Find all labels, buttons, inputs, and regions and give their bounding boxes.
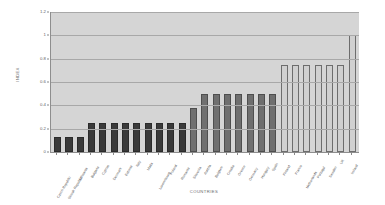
x-label-slot: Spain xyxy=(266,155,277,187)
x-label-slot: Greece xyxy=(232,155,243,187)
gridline xyxy=(51,59,359,60)
bar[interactable] xyxy=(213,94,220,152)
x-label-slot: UK xyxy=(334,155,345,187)
gridline xyxy=(51,105,359,106)
x-label-slot: Slovak Republic xyxy=(62,155,73,187)
bar[interactable] xyxy=(326,65,333,153)
x-label-slot: Estonia xyxy=(119,155,130,187)
bar[interactable] xyxy=(281,65,288,153)
bar[interactable] xyxy=(247,94,254,152)
x-label-slot: Slovenia xyxy=(187,155,198,187)
y-tick-mark xyxy=(47,152,49,153)
bar[interactable] xyxy=(145,123,152,152)
x-label-slot: Malta xyxy=(142,155,153,187)
y-tick-label: 0.2 xyxy=(40,127,46,131)
plot-area xyxy=(50,12,359,153)
bar[interactable] xyxy=(167,123,174,152)
bar[interactable] xyxy=(269,94,276,152)
bar[interactable] xyxy=(337,65,344,153)
x-label-slot: Sweden xyxy=(323,155,334,187)
bar[interactable] xyxy=(179,123,186,152)
x-label-slot: Czech Republic xyxy=(51,155,62,187)
bar[interactable] xyxy=(235,94,242,152)
y-tick-mark xyxy=(47,128,49,129)
bar[interactable] xyxy=(349,35,356,152)
y-tick-label: 0 xyxy=(44,150,46,154)
gridline xyxy=(51,12,359,13)
y-tick-mark xyxy=(47,58,49,59)
y-tick-label: 0.6 xyxy=(40,80,46,84)
bar[interactable] xyxy=(99,123,106,152)
x-label-slot: Bulgaria xyxy=(85,155,96,187)
x-label-slot: Italy xyxy=(130,155,141,187)
bar[interactable] xyxy=(111,123,118,152)
bar[interactable] xyxy=(133,123,140,152)
bar[interactable] xyxy=(258,94,265,152)
bar[interactable] xyxy=(54,137,61,152)
x-axis-label: Ireland xyxy=(351,164,359,175)
x-label-slot: Belgium xyxy=(210,155,221,187)
x-label-slot: Portugal xyxy=(312,155,323,187)
y-tick-label: 0.4 xyxy=(40,103,46,107)
x-label-slot: France xyxy=(289,155,300,187)
x-label-slot: Poland xyxy=(164,155,175,187)
x-axis-label: UK xyxy=(340,159,345,165)
bar[interactable] xyxy=(224,94,231,152)
x-label-slot: Finland xyxy=(278,155,289,187)
bar[interactable] xyxy=(315,65,322,153)
bar-chart-figure: INDEX 00.20.40.60.811.2 Czech RepublicSl… xyxy=(0,0,385,205)
y-tick-mark xyxy=(47,12,49,13)
x-axis-title: COUNTRIES xyxy=(50,189,358,194)
y-axis-title: INDEX xyxy=(15,45,20,105)
bar[interactable] xyxy=(190,108,197,152)
y-axis-tick-labels: 00.20.40.60.811.2 xyxy=(28,12,48,152)
x-label-slot: Cyprus xyxy=(96,155,107,187)
gridline xyxy=(51,82,359,83)
bar[interactable] xyxy=(65,137,72,152)
bar[interactable] xyxy=(122,123,129,152)
bar[interactable] xyxy=(156,123,163,152)
x-label-slot: Netherlands xyxy=(300,155,311,187)
bar[interactable] xyxy=(88,123,95,152)
x-label-slot: Ireland xyxy=(346,155,357,187)
x-label-slot: Lithuania xyxy=(74,155,85,187)
bar[interactable] xyxy=(77,137,84,152)
bar[interactable] xyxy=(201,94,208,152)
gridline xyxy=(51,129,359,130)
x-label-slot: Romania xyxy=(176,155,187,187)
bar[interactable] xyxy=(303,65,310,153)
x-label-slot: Croatia xyxy=(221,155,232,187)
y-tick-mark xyxy=(47,82,49,83)
x-label-slot: Hungary xyxy=(255,155,266,187)
bar[interactable] xyxy=(292,65,299,153)
gridline xyxy=(51,35,359,36)
y-tick-label: 1.2 xyxy=(40,10,46,14)
x-label-slot: Germany xyxy=(244,155,255,187)
x-label-slot: Luxembourg xyxy=(153,155,164,187)
x-label-slot: Denmark xyxy=(108,155,119,187)
y-tick-mark xyxy=(47,105,49,106)
x-label-slot: Austria xyxy=(198,155,209,187)
y-tick-label: 0.8 xyxy=(40,57,46,61)
x-axis-category-labels: Czech RepublicSlovak RepublicLithuaniaBu… xyxy=(50,155,358,187)
y-tick-label: 1 xyxy=(44,33,46,37)
y-tick-mark xyxy=(47,35,49,36)
